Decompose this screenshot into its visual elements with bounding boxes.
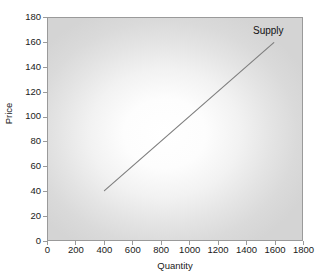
supply-series-label: Supply bbox=[253, 25, 284, 36]
supply-curve-chart: Price 180 160 140 120 100 80 60 40 20 0 bbox=[0, 0, 325, 279]
x-tick-label: 600 bbox=[125, 245, 141, 255]
plot-area bbox=[47, 17, 303, 241]
y-axis-title: Price bbox=[3, 92, 14, 136]
x-tick-label: 1800 bbox=[293, 245, 314, 255]
x-tick-label: 200 bbox=[68, 245, 84, 255]
supply-line bbox=[104, 43, 273, 191]
x-tick-label: 1200 bbox=[208, 245, 229, 255]
y-tick-label: 80 bbox=[15, 136, 41, 146]
y-tick-label: 100 bbox=[15, 111, 41, 121]
x-axis-tick-labels: 0 200 400 600 800 1000 1200 1400 1600 18… bbox=[0, 245, 325, 259]
supply-line-svg bbox=[48, 18, 302, 240]
y-tick-label: 160 bbox=[15, 37, 41, 47]
x-tick-label: 0 bbox=[45, 245, 50, 255]
x-tick-label: 1000 bbox=[179, 245, 200, 255]
y-axis-tick-labels: 180 160 140 120 100 80 60 40 20 0 bbox=[13, 0, 41, 279]
x-tick-label: 1600 bbox=[264, 245, 285, 255]
x-tick-label: 400 bbox=[96, 245, 112, 255]
y-tick-label: 40 bbox=[15, 186, 41, 196]
x-tick-label: 800 bbox=[153, 245, 169, 255]
y-tick-label: 20 bbox=[15, 211, 41, 221]
y-tick-label: 60 bbox=[15, 161, 41, 171]
y-tick-label: 140 bbox=[15, 62, 41, 72]
y-tick-label: 180 bbox=[15, 12, 41, 22]
y-tick-label: 120 bbox=[15, 87, 41, 97]
x-axis-title: Quantity bbox=[47, 260, 303, 271]
x-tick-label: 1400 bbox=[236, 245, 257, 255]
